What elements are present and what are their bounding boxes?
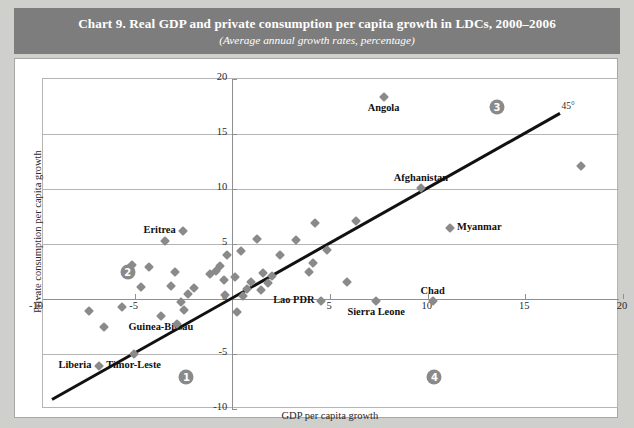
y-tick-label: -5	[201, 346, 227, 357]
data-point-label: Chad	[421, 285, 445, 296]
quadrant-badge-2: 2	[120, 264, 135, 279]
quadrant-badge-1: 1	[179, 370, 194, 385]
chart-title: Chart 9. Real GDP and private consumptio…	[78, 16, 556, 32]
data-point-label: Lao PDR	[273, 294, 314, 305]
chart-subtitle: (Average annual growth rates, percentage…	[219, 34, 415, 46]
data-point-label: Angola	[368, 102, 400, 113]
reference-line-label: 45°	[561, 101, 574, 111]
data-point-label: Guinea-Bissau	[129, 321, 194, 332]
x-tick-mark	[135, 294, 136, 299]
y-axis-title: Private consumption per capita growth	[32, 150, 43, 313]
data-point-label: Sierra Leone	[347, 306, 404, 317]
y-tick-label: 5	[201, 236, 227, 247]
y-tick-mark	[232, 354, 237, 355]
quadrant-badge-3: 3	[489, 99, 504, 114]
y-tick-label: 10	[201, 181, 227, 192]
y-tick-label: 15	[201, 126, 227, 137]
data-point-label: Timor-Leste	[106, 359, 161, 370]
x-tick-mark	[623, 294, 624, 299]
gridline-y	[43, 244, 619, 245]
x-tick-mark	[525, 294, 526, 299]
y-tick-mark	[232, 134, 237, 135]
x-tick-label: -10	[21, 300, 51, 311]
y-tick-mark	[232, 189, 237, 190]
x-tick-label: 15	[509, 300, 539, 311]
y-tick-mark	[232, 244, 237, 245]
chart-title-banner: Chart 9. Real GDP and private consumptio…	[14, 8, 620, 54]
y-tick-label: 20	[201, 71, 227, 82]
y-tick-label: -10	[201, 401, 227, 412]
gridline-y	[43, 134, 619, 135]
chart-page: Chart 9. Real GDP and private consumptio…	[0, 0, 634, 428]
y-tick-mark	[232, 79, 237, 80]
y-tick-mark	[232, 409, 237, 410]
gridline-y	[43, 189, 619, 190]
data-point-label: Afghanistan	[394, 172, 448, 183]
x-tick-mark	[330, 294, 331, 299]
quadrant-badge-4: 4	[427, 370, 442, 385]
x-tick-label: 20	[607, 300, 634, 311]
data-point-label: Myanmar	[457, 221, 501, 232]
data-point-label: Eritrea	[144, 224, 176, 235]
x-axis-title: GDP per capita growth	[282, 410, 379, 421]
data-point-label: Liberia	[59, 359, 92, 370]
